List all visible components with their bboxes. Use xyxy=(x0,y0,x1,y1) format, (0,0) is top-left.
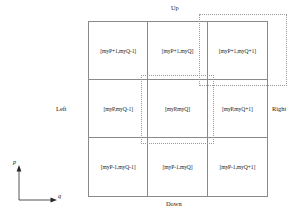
axis-indicator: p q xyxy=(12,160,66,206)
diagram-canvas: Up Down Left Right [myP+1,myQ-1] [myP+1,… xyxy=(0,0,306,218)
grid-cell-middle-right: [myP,myQ+1] xyxy=(208,80,267,138)
grid-cell-label: [myP-1,myQ+1] xyxy=(219,164,255,170)
grid-cell-bottom-left: [myP-1,myQ-1] xyxy=(89,138,148,196)
grid-cell-label: [myP,myQ-1] xyxy=(103,106,133,112)
edge-label-down: Down xyxy=(166,200,182,207)
edge-label-right: Right xyxy=(272,105,286,112)
edge-label-up: Up xyxy=(171,4,179,11)
grid-cell-center: [myP,myQ] xyxy=(148,80,207,138)
grid-cell-label: [myP+1,myQ] xyxy=(162,48,193,54)
axis-label-p: p xyxy=(13,158,16,165)
grid-cell-label: [myP-1,myQ] xyxy=(162,164,192,170)
grid-cell-bottom-right: [myP-1,myQ+1] xyxy=(208,138,267,196)
neighborhood-grid: [myP+1,myQ-1] [myP+1,myQ] [myP+1,myQ+1] … xyxy=(88,21,268,197)
grid-cell-label: [myP,myQ] xyxy=(165,106,190,112)
grid-cell-bottom-center: [myP-1,myQ] xyxy=(148,138,207,196)
grid-cell-label: [myP-1,myQ-1] xyxy=(101,164,136,170)
edge-label-left: Left xyxy=(56,105,67,112)
grid-cell-middle-left: [myP,myQ-1] xyxy=(89,80,148,138)
grid-cell-label: [myP+1,myQ+1] xyxy=(219,48,256,54)
grid-cell-top-right: [myP+1,myQ+1] xyxy=(208,22,267,80)
grid-cell-top-left: [myP+1,myQ-1] xyxy=(89,22,148,80)
grid-cell-label: [myP,myQ+1] xyxy=(222,106,253,112)
axis-label-q: q xyxy=(58,192,61,199)
grid-cell-top-center: [myP+1,myQ] xyxy=(148,22,207,80)
axis-arrows-icon xyxy=(12,160,66,206)
grid-cell-label: [myP+1,myQ-1] xyxy=(100,48,136,54)
